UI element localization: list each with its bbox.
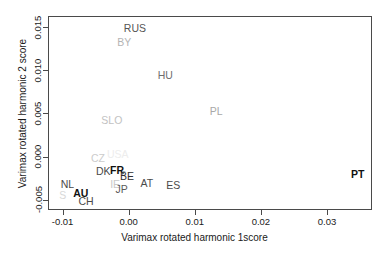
data-point-label: PT bbox=[351, 169, 364, 180]
data-point-label: CZ bbox=[91, 153, 105, 164]
x-tick-mark bbox=[327, 210, 328, 215]
data-point-label: ES bbox=[166, 180, 180, 191]
data-point-label: S bbox=[59, 189, 66, 200]
data-point-label: BY bbox=[117, 36, 131, 47]
x-tick-label: 0.01 bbox=[186, 216, 205, 227]
x-tick-label: 0.02 bbox=[252, 216, 271, 227]
y-axis-title: Varimax rotated harmonic 2 score bbox=[17, 4, 28, 224]
x-tick-mark bbox=[63, 210, 64, 215]
data-point-label: HU bbox=[158, 70, 173, 81]
x-tick-mark bbox=[261, 210, 262, 215]
data-point-label: USA bbox=[107, 148, 129, 159]
x-tick-label: 0.00 bbox=[119, 216, 138, 227]
plot-area: RUSBYHUPLSLOUSACZDKFRcBEATESPTNLIEJPSAUC… bbox=[48, 16, 372, 210]
x-axis-title: Varimax rotated harmonic 1score bbox=[0, 232, 389, 243]
x-tick-mark bbox=[195, 210, 196, 215]
data-point-layer: RUSBYHUPLSLOUSACZDKFRcBEATESPTNLIEJPSAUC… bbox=[49, 17, 371, 209]
data-point-label: DK bbox=[96, 166, 111, 177]
data-point-label: RUS bbox=[124, 23, 146, 34]
x-tick-label: 0.03 bbox=[318, 216, 337, 227]
data-point-label: AT bbox=[141, 177, 154, 188]
data-point-label: JP bbox=[116, 184, 128, 195]
x-tick-mark bbox=[129, 210, 130, 215]
data-point-label: SLO bbox=[101, 114, 122, 125]
data-point-label: BE bbox=[120, 171, 134, 182]
scatter-plot-figure: RUSBYHUPLSLOUSACZDKFRcBEATESPTNLIEJPSAUC… bbox=[0, 0, 389, 264]
data-point-label: CH bbox=[78, 195, 93, 206]
data-point-label: PL bbox=[210, 105, 223, 116]
